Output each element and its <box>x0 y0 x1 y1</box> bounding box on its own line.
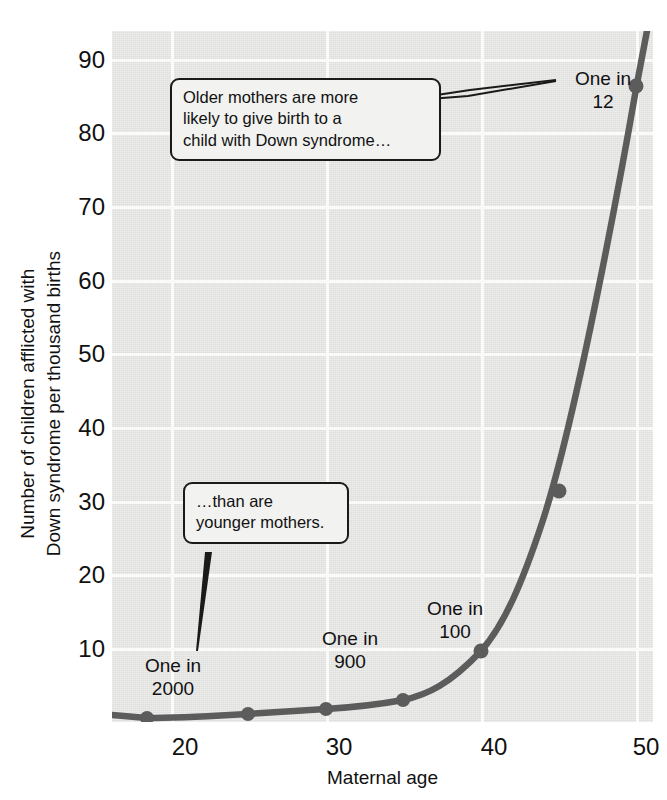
chart-figure: 90 80 70 60 50 40 30 20 10 20 30 40 50 M… <box>0 0 667 800</box>
callout-older-mothers: Older mothers are more likely to give bi… <box>170 78 441 161</box>
callout-younger-mothers: …than are younger mothers. <box>183 482 349 544</box>
leader-wedge-younger-mothers <box>196 552 212 651</box>
